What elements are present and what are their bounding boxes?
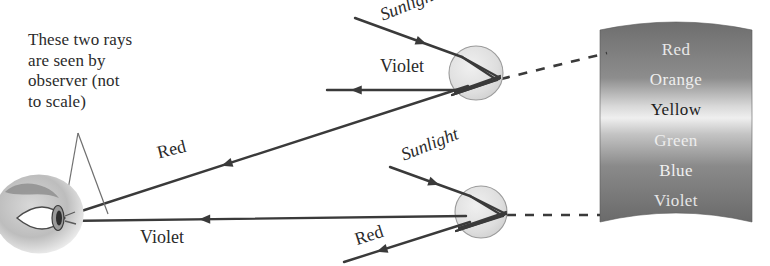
arrowhead-upper-sunlight [415,36,427,45]
rainbow-diagram-figure: These two raysare seen byobserver (notto… [0,0,770,266]
spectrum-label-blue: Blue [631,161,721,181]
arrowhead-lower-violet-to-eye [199,215,210,224]
ray-label-upper-violet-out: Violet [380,56,424,77]
ray-label-lower-violet-to-eye: Violet [140,227,184,248]
caption-line-3: to scale) [28,92,132,113]
observer-eye [0,174,84,253]
arrowhead-upper-violet-out [351,85,362,94]
spectrum-label-yellow: Yellow [631,100,721,120]
ray-lower-violet-to-eye [64,216,466,221]
spectrum-label-orange: Orange [631,70,721,90]
dashed-projection-lines [501,53,607,215]
caption-note: These two raysare seen byobserver (notto… [28,30,132,112]
caption-line-0: These two rays [28,30,132,51]
spectrum-label-green: Green [631,131,721,151]
spectrum-label-violet: Violet [631,191,721,211]
spectrum-label-red: Red [631,40,721,60]
ray-upper-sunlight [355,18,462,57]
upper-dashed [501,53,607,79]
arrowhead-lower-sunlight [427,177,439,186]
caption-line-2: observer (not [28,71,132,92]
caption-line-1: are seen by [28,51,132,72]
arrowhead-upper-red-to-eye [222,158,234,167]
leader-line-1 [78,133,108,214]
arrowhead-lower-red-out [377,244,389,253]
